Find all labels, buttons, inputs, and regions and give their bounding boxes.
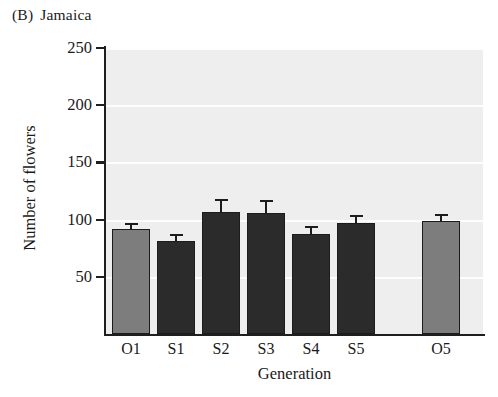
error-bar-cap-o1 [125,223,138,225]
x-axis-tick-label-s5: S5 [348,340,365,358]
x-axis-tick-label-s4: S4 [303,340,320,358]
bar-s4 [292,234,330,334]
x-axis-title: Generation [106,364,483,384]
y-axis-title: Number of flowers [20,88,40,288]
x-axis-tick-label-o5: O5 [431,340,451,358]
x-axis-tick-label-s3: S3 [258,340,275,358]
bar-s1 [157,241,195,334]
y-axis-tick-label: 250 [46,38,92,58]
y-axis-tick [96,104,105,106]
bar-s2 [202,212,240,334]
y-axis-tick [96,47,105,49]
error-bar-cap-o5 [435,214,448,216]
bar-s3 [247,213,285,334]
x-axis-tick-label-s1: S1 [168,340,185,358]
y-axis-tick [96,219,105,221]
y-axis-tick-label: 150 [46,152,92,172]
bar-o5 [422,221,460,334]
figure-panel-b-jamaica: (B)Jamaica Number of flowers 50100150200… [0,0,498,397]
panel-tag: (B) [12,6,33,23]
y-axis-tick-label: 50 [46,267,92,287]
x-axis-tick-label-s2: S2 [213,340,230,358]
error-bar-cap-s2 [215,199,228,201]
y-axis-tick [96,161,105,163]
bar-s5 [337,223,375,334]
gridline [106,48,483,50]
error-bar-cap-s3 [260,200,273,202]
bar-o1 [112,229,150,334]
error-bar-cap-s5 [350,215,363,217]
gridline [106,162,483,164]
error-bar-s3 [265,200,267,213]
x-axis-line [104,334,485,336]
error-bar-cap-s4 [305,226,318,228]
y-axis-tick [96,276,105,278]
error-bar-s2 [220,199,222,212]
y-axis-tick-labels: 50100150200250 [44,0,92,397]
error-bar-cap-s1 [170,234,183,236]
y-axis-line [104,46,106,336]
x-axis-tick-label-o1: O1 [121,340,141,358]
y-axis-tick-label: 200 [46,95,92,115]
y-axis-tick-label: 100 [46,210,92,230]
gridline [106,105,483,107]
